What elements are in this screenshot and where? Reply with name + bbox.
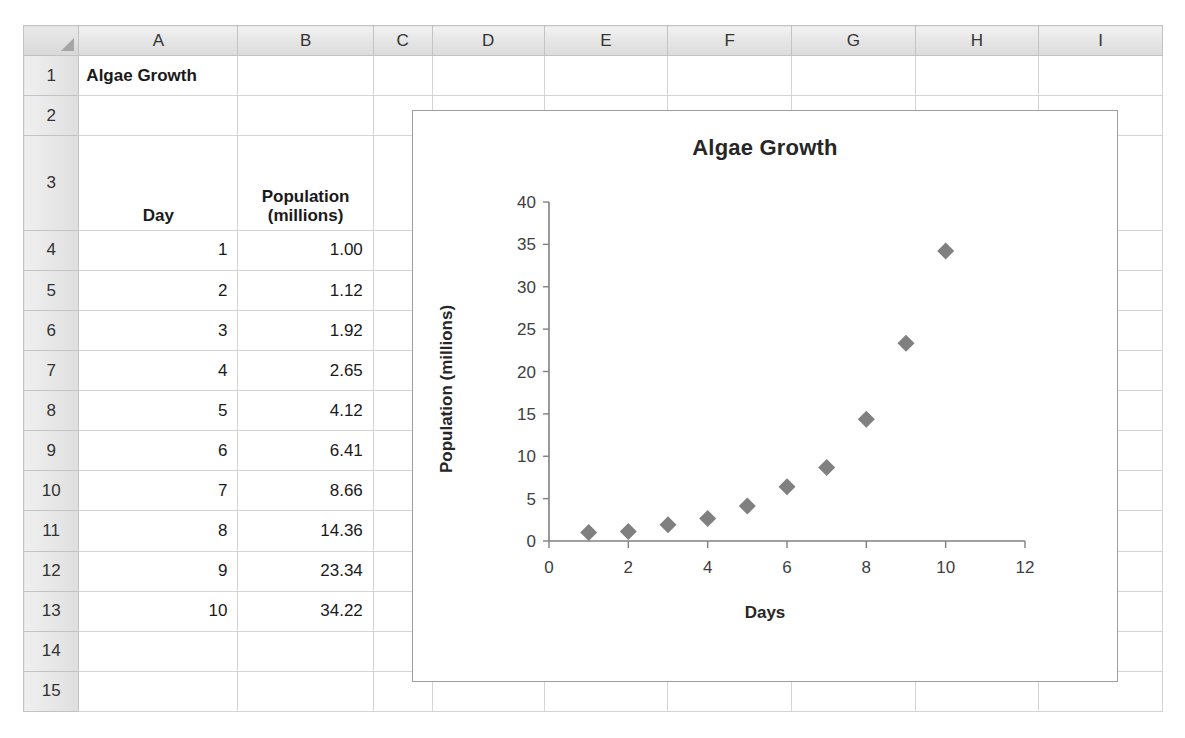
cell-a14[interactable] bbox=[79, 631, 238, 671]
row-header-9[interactable]: 9 bbox=[24, 431, 79, 471]
cell-b4-population[interactable]: 1.00 bbox=[238, 230, 373, 270]
y-tick-label: 10 bbox=[517, 447, 536, 466]
population-header-line1: Population bbox=[245, 187, 365, 207]
y-tick-label: 0 bbox=[527, 532, 536, 551]
cell-a9-day[interactable]: 6 bbox=[79, 431, 238, 471]
column-header-f[interactable]: F bbox=[668, 26, 792, 56]
column-header-d[interactable]: D bbox=[432, 26, 544, 56]
cell-b14[interactable] bbox=[238, 631, 373, 671]
y-tick-label: 40 bbox=[517, 193, 536, 212]
cell-b3-population-header[interactable]: Population (millions) bbox=[238, 136, 373, 231]
y-tick-label: 25 bbox=[517, 320, 536, 339]
cell-d1[interactable] bbox=[432, 56, 544, 96]
cell-b11-population[interactable]: 14.36 bbox=[238, 511, 373, 551]
chart-data-point bbox=[620, 523, 637, 540]
cell-a5-day[interactable]: 2 bbox=[79, 271, 238, 311]
chart-y-axis-label: Population (millions) bbox=[437, 279, 457, 499]
column-header-i[interactable]: I bbox=[1039, 26, 1163, 56]
cell-a13-day[interactable]: 10 bbox=[79, 591, 238, 631]
column-header-b[interactable]: B bbox=[238, 26, 373, 56]
chart-plot-area: 0510152025303540024681012 bbox=[413, 111, 1119, 683]
cell-e1[interactable] bbox=[544, 56, 668, 96]
x-tick-label: 12 bbox=[1016, 558, 1035, 577]
select-all-triangle-icon bbox=[61, 38, 74, 51]
cell-b5-population[interactable]: 1.12 bbox=[238, 271, 373, 311]
y-tick-label: 35 bbox=[517, 235, 536, 254]
row-header-15[interactable]: 15 bbox=[24, 671, 79, 711]
cell-b9-population[interactable]: 6.41 bbox=[238, 431, 373, 471]
x-tick-label: 0 bbox=[544, 558, 553, 577]
cell-b7-population[interactable]: 2.65 bbox=[238, 351, 373, 391]
column-header-e[interactable]: E bbox=[544, 26, 668, 56]
cell-c1[interactable] bbox=[373, 56, 432, 96]
select-all-corner[interactable] bbox=[24, 26, 79, 56]
chart-x-axis-label: Days bbox=[413, 603, 1117, 623]
chart-data-point bbox=[699, 510, 716, 527]
cell-a15[interactable] bbox=[79, 671, 238, 711]
row-header-14[interactable]: 14 bbox=[24, 631, 79, 671]
chart-data-point bbox=[739, 498, 756, 515]
column-header-h[interactable]: H bbox=[915, 26, 1039, 56]
cell-a11-day[interactable]: 8 bbox=[79, 511, 238, 551]
cell-f1[interactable] bbox=[668, 56, 792, 96]
cell-a4-day[interactable]: 1 bbox=[79, 230, 238, 270]
spreadsheet-screenshot: A B C D E F G H I 1 Algae Growth bbox=[0, 0, 1185, 738]
row-header-3[interactable]: 3 bbox=[24, 136, 79, 231]
cell-a7-day[interactable]: 4 bbox=[79, 351, 238, 391]
chart-data-point bbox=[898, 335, 915, 352]
cell-b2[interactable] bbox=[238, 96, 373, 136]
row-header-2[interactable]: 2 bbox=[24, 96, 79, 136]
table-row: 1 Algae Growth bbox=[24, 56, 1163, 96]
column-header-row: A B C D E F G H I bbox=[24, 26, 1163, 56]
y-tick-label: 20 bbox=[517, 363, 536, 382]
embedded-chart[interactable]: Algae Growth 0510152025303540024681012 P… bbox=[412, 110, 1118, 682]
x-tick-label: 4 bbox=[703, 558, 712, 577]
y-tick-label: 30 bbox=[517, 278, 536, 297]
cell-b15[interactable] bbox=[238, 671, 373, 711]
cell-a2[interactable] bbox=[79, 96, 238, 136]
row-header-10[interactable]: 10 bbox=[24, 471, 79, 511]
cell-h1[interactable] bbox=[915, 56, 1039, 96]
y-tick-label: 5 bbox=[527, 490, 536, 509]
chart-data-point bbox=[660, 516, 677, 533]
row-header-5[interactable]: 5 bbox=[24, 271, 79, 311]
chart-data-point bbox=[818, 459, 835, 476]
row-header-4[interactable]: 4 bbox=[24, 230, 79, 270]
chart-data-point bbox=[937, 242, 954, 259]
chart-data-point bbox=[858, 411, 875, 428]
chart-data-point bbox=[580, 524, 597, 541]
x-tick-label: 8 bbox=[862, 558, 871, 577]
row-header-1[interactable]: 1 bbox=[24, 56, 79, 96]
column-header-g[interactable]: G bbox=[791, 26, 915, 56]
row-header-7[interactable]: 7 bbox=[24, 351, 79, 391]
cell-b12-population[interactable]: 23.34 bbox=[238, 551, 373, 591]
cell-a3-day-header[interactable]: Day bbox=[79, 136, 238, 231]
row-header-12[interactable]: 12 bbox=[24, 551, 79, 591]
x-tick-label: 10 bbox=[936, 558, 955, 577]
cell-a12-day[interactable]: 9 bbox=[79, 551, 238, 591]
cell-a8-day[interactable]: 5 bbox=[79, 391, 238, 431]
row-header-13[interactable]: 13 bbox=[24, 591, 79, 631]
cell-b10-population[interactable]: 8.66 bbox=[238, 471, 373, 511]
cell-i1[interactable] bbox=[1039, 56, 1163, 96]
row-header-8[interactable]: 8 bbox=[24, 391, 79, 431]
column-header-a[interactable]: A bbox=[79, 26, 238, 56]
row-header-11[interactable]: 11 bbox=[24, 511, 79, 551]
chart-data-point bbox=[779, 478, 796, 495]
cell-a6-day[interactable]: 3 bbox=[79, 311, 238, 351]
cell-a10-day[interactable]: 7 bbox=[79, 471, 238, 511]
x-tick-label: 2 bbox=[624, 558, 633, 577]
cell-b8-population[interactable]: 4.12 bbox=[238, 391, 373, 431]
row-header-6[interactable]: 6 bbox=[24, 311, 79, 351]
x-tick-label: 6 bbox=[782, 558, 791, 577]
population-header-line2: (millions) bbox=[245, 206, 365, 226]
column-header-c[interactable]: C bbox=[373, 26, 432, 56]
cell-b6-population[interactable]: 1.92 bbox=[238, 311, 373, 351]
cell-g1[interactable] bbox=[791, 56, 915, 96]
cell-b13-population[interactable]: 34.22 bbox=[238, 591, 373, 631]
cell-a1[interactable]: Algae Growth bbox=[79, 56, 238, 96]
cell-b1[interactable] bbox=[238, 56, 373, 96]
y-tick-label: 15 bbox=[517, 405, 536, 424]
